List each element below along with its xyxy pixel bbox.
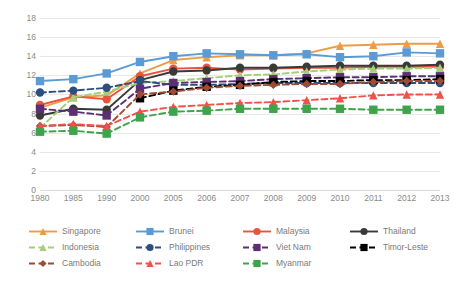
data-point-marker — [69, 107, 77, 115]
data-point-marker — [146, 228, 153, 235]
legend-item-label: Philippines — [169, 243, 210, 252]
data-point-marker — [202, 106, 210, 114]
legend-item-label: Timor-Leste — [383, 243, 428, 252]
legend-item-label: Viet Nam — [276, 243, 311, 252]
legend-swatch-icon — [28, 242, 58, 253]
data-point-marker — [36, 77, 44, 85]
data-point-marker — [236, 50, 244, 58]
data-point-marker — [436, 49, 444, 57]
legend-item-timor-leste[interactable]: Timor-Leste — [349, 240, 428, 255]
data-point-marker — [402, 48, 410, 56]
data-point-marker — [369, 106, 377, 114]
data-point-marker — [436, 106, 444, 114]
legend-swatch-icon — [242, 226, 272, 237]
data-point-marker — [202, 66, 210, 74]
x-tick-label: 2010 — [331, 194, 350, 203]
x-tick-label: 2005 — [164, 194, 183, 203]
x-tick-label: 1990 — [97, 194, 116, 203]
legend-item-label: Brunei — [169, 227, 194, 236]
plot-canvas — [40, 18, 440, 190]
chart-legend: SingaporeBruneiMalaysiaThailandIndonesia… — [28, 224, 454, 280]
data-point-marker — [336, 105, 344, 113]
gridline — [40, 190, 440, 191]
data-point-marker — [36, 105, 44, 113]
data-point-marker — [236, 105, 244, 113]
legend-item-label: Indonesia — [62, 243, 99, 252]
data-point-marker — [102, 95, 110, 103]
x-tick-label: 2007 — [231, 194, 250, 203]
y-tick-label: 12 — [4, 71, 36, 80]
legend-item-malaysia[interactable]: Malaysia — [242, 224, 310, 239]
legend-item-lao-pdr[interactable]: Lao PDR — [135, 256, 204, 271]
data-point-marker — [136, 58, 144, 66]
data-point-marker — [169, 52, 177, 60]
x-tick-label: 1980 — [31, 194, 50, 203]
x-tick-label: 2012 — [397, 194, 416, 203]
data-point-marker — [136, 113, 144, 121]
data-point-marker — [369, 52, 377, 60]
x-tick-label: 2011 — [364, 194, 382, 203]
data-point-marker — [169, 107, 177, 115]
data-point-marker — [253, 244, 260, 251]
x-tick-label: 2008 — [264, 194, 283, 203]
data-point-marker — [236, 63, 244, 71]
legend-item-indonesia[interactable]: Indonesia — [28, 240, 99, 255]
data-point-marker — [102, 129, 110, 137]
y-tick-label: 4 — [4, 148, 36, 157]
data-point-marker — [269, 105, 277, 113]
plot-area: 024681012141618 198019851990200020052006… — [0, 0, 454, 218]
legend-item-singapore[interactable]: Singapore — [28, 224, 101, 239]
data-point-marker — [253, 228, 260, 235]
y-tick-label: 8 — [4, 109, 36, 118]
data-point-marker — [102, 69, 110, 77]
legend-item-label: Lao PDR — [169, 259, 204, 268]
data-point-marker — [360, 244, 367, 251]
data-point-marker — [402, 106, 410, 114]
data-point-marker — [69, 75, 77, 83]
data-point-marker — [39, 260, 46, 267]
x-axis-labels: 1980198519902000200520062007200820092010… — [40, 194, 440, 210]
data-point-marker — [336, 53, 344, 61]
legend-item-myanmar[interactable]: Myanmar — [242, 256, 311, 271]
data-point-marker — [36, 88, 44, 96]
legend-item-label: Thailand — [383, 227, 416, 236]
data-point-marker — [202, 49, 210, 57]
legend-item-thailand[interactable]: Thailand — [349, 224, 416, 239]
data-point-marker — [302, 50, 310, 58]
legend-swatch-icon — [349, 226, 379, 237]
line-chart: 024681012141618 198019851990200020052006… — [0, 0, 454, 288]
y-tick-label: 6 — [4, 128, 36, 137]
legend-item-label: Singapore — [62, 227, 101, 236]
data-point-marker — [360, 228, 367, 235]
data-point-marker — [136, 77, 144, 85]
legend-item-label: Malaysia — [276, 227, 310, 236]
x-tick-label: 2006 — [197, 194, 216, 203]
data-point-marker — [169, 79, 177, 87]
data-point-marker — [146, 244, 153, 251]
legend-item-label: Cambodia — [62, 259, 101, 268]
legend-item-cambodia[interactable]: Cambodia — [28, 256, 101, 271]
data-point-marker — [269, 51, 277, 59]
x-tick-label: 2013 — [431, 194, 450, 203]
y-tick-label: 16 — [4, 33, 36, 42]
data-point-marker — [69, 86, 77, 94]
y-tick-label: 2 — [4, 167, 36, 176]
x-tick-label: 2000 — [131, 194, 150, 203]
data-point-marker — [253, 260, 260, 267]
legend-swatch-icon — [349, 242, 379, 253]
legend-swatch-icon — [135, 258, 165, 269]
legend-item-brunei[interactable]: Brunei — [135, 224, 194, 239]
y-tick-label: 14 — [4, 52, 36, 61]
y-axis-labels: 024681012141618 — [0, 18, 36, 190]
legend-swatch-icon — [28, 226, 58, 237]
y-tick-label: 10 — [4, 90, 36, 99]
data-point-marker — [69, 127, 77, 135]
legend-item-philippines[interactable]: Philippines — [135, 240, 210, 255]
y-tick-label: 18 — [4, 14, 36, 23]
series-layer — [40, 18, 440, 190]
legend-swatch-icon — [135, 226, 165, 237]
legend-swatch-icon — [242, 258, 272, 269]
legend-swatch-icon — [242, 242, 272, 253]
data-point-marker — [102, 84, 110, 92]
legend-item-viet-nam[interactable]: Viet Nam — [242, 240, 311, 255]
